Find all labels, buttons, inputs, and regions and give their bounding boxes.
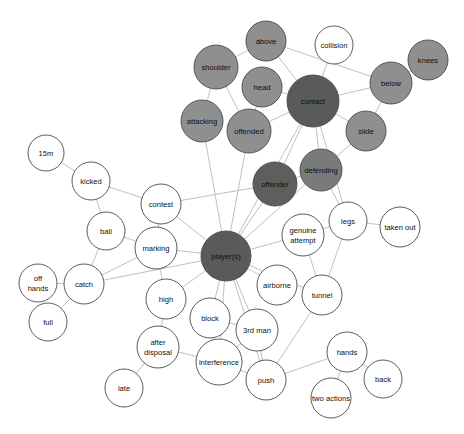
graph-node-catch[interactable]: catch [64,264,104,304]
graph-node-hands[interactable]: hands [327,332,367,372]
graph-node-ball[interactable]: ball [87,212,125,250]
node-circle[interactable] [246,360,286,400]
node-circle[interactable] [327,332,367,372]
node-circle[interactable] [227,109,271,153]
node-circle[interactable] [246,21,286,61]
node-circle[interactable] [28,135,64,171]
graph-node-third_man[interactable]: 3rd man [236,309,278,351]
graph-node-15m[interactable]: 15m [28,135,64,171]
node-circle[interactable] [105,369,143,407]
node-circle[interactable] [196,339,242,385]
node-circle[interactable] [29,303,67,341]
node-circle[interactable] [72,162,110,200]
graph-node-offender[interactable]: offender [253,162,297,206]
node-circle[interactable] [201,231,251,281]
graph-node-head[interactable]: head [242,67,282,107]
graph-node-attacking[interactable]: attacking [181,100,223,142]
node-circle[interactable] [380,207,420,247]
node-circle[interactable] [137,326,179,368]
graph-node-below[interactable]: below [370,62,412,104]
node-circle[interactable] [287,75,339,127]
node-circle[interactable] [346,111,386,151]
node-circle[interactable] [315,26,353,64]
graph-node-slide[interactable]: slide [346,111,386,151]
node-circle[interactable] [181,100,223,142]
graph-node-taken_out[interactable]: taken out [380,207,420,247]
graph-node-offended[interactable]: offended [227,109,271,153]
graph-node-late[interactable]: late [105,369,143,407]
graph-node-block[interactable]: block [190,298,230,338]
graph-node-legs[interactable]: legs [329,202,367,240]
graph-node-interference[interactable]: interference [196,339,242,385]
graph-node-above[interactable]: above [246,21,286,61]
graph-node-back[interactable]: back [364,360,402,398]
node-circle[interactable] [329,202,367,240]
graph-node-collision[interactable]: collision [315,26,353,64]
node-circle[interactable] [257,265,297,305]
node-circle[interactable] [194,45,238,89]
graph-node-contact[interactable]: contact [287,75,339,127]
node-circle[interactable] [190,298,230,338]
graph-node-defending[interactable]: defending [300,149,342,191]
node-circle[interactable] [300,149,342,191]
graph-node-genuine_attempt[interactable]: genuineattempt [282,214,324,256]
node-circle[interactable] [87,212,125,250]
graph-node-players[interactable]: player(s) [201,231,251,281]
graph-node-after_disposal[interactable]: afterdisposal [137,326,179,368]
graph-node-off_hands[interactable]: offhands [19,264,57,302]
network-graph-canvas: abovecollisionkneesshoulderheadbelowcont… [0,0,464,434]
graph-node-push[interactable]: push [246,360,286,400]
node-circle[interactable] [253,162,297,206]
graph-node-tunnel[interactable]: tunnel [302,275,342,315]
graph-svg: abovecollisionkneesshoulderheadbelowcont… [0,0,464,434]
graph-node-full[interactable]: full [29,303,67,341]
node-circle[interactable] [64,264,104,304]
node-circle[interactable] [242,67,282,107]
node-circle[interactable] [236,309,278,351]
node-circle[interactable] [135,227,177,269]
node-circle[interactable] [141,184,181,224]
graph-node-airborne[interactable]: airborne [257,265,297,305]
node-circle[interactable] [282,214,324,256]
graph-node-contest[interactable]: contest [141,184,181,224]
node-circle[interactable] [370,62,412,104]
graph-node-marking[interactable]: marking [135,227,177,269]
graph-node-two_actions[interactable]: two actions [311,378,351,418]
graph-node-kicked[interactable]: kicked [72,162,110,200]
node-circle[interactable] [408,40,448,80]
graph-node-high[interactable]: high [146,279,186,319]
node-circle[interactable] [302,275,342,315]
node-circle[interactable] [311,378,351,418]
node-circle[interactable] [146,279,186,319]
node-circle[interactable] [19,264,57,302]
nodes-layer: abovecollisionkneesshoulderheadbelowcont… [19,21,448,418]
node-circle[interactable] [364,360,402,398]
graph-node-knees[interactable]: knees [408,40,448,80]
graph-node-shoulder[interactable]: shoulder [194,45,238,89]
